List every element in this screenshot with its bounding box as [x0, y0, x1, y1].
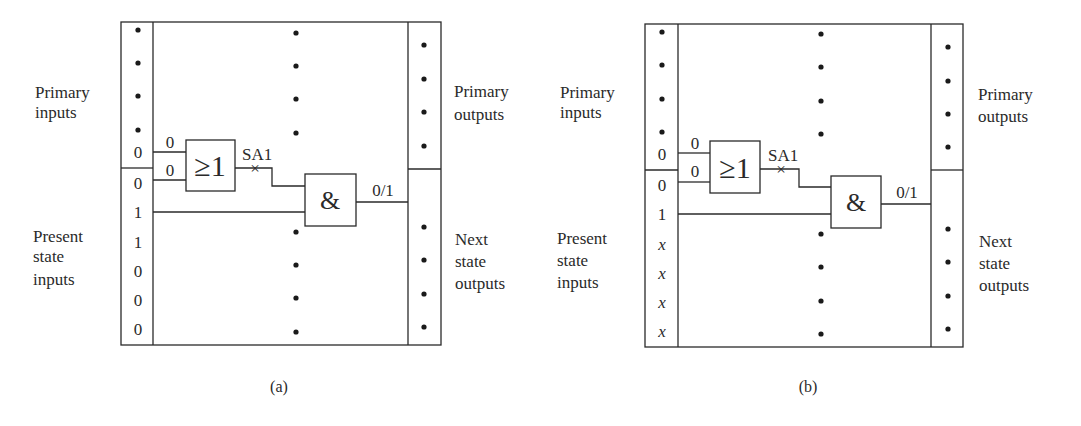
svg-text:outputs: outputs	[455, 274, 505, 293]
next-state-outputs-label: Next state outputs	[455, 230, 505, 293]
fault-marker-icon: ×	[250, 159, 260, 178]
present-state-value: 0	[134, 174, 143, 193]
present-state-value: x	[657, 264, 666, 283]
or-input-label-1: 0	[166, 133, 175, 152]
sequential-circuit-figure: 0 0 1 1 0 0 0	[0, 0, 1081, 426]
present-state-inputs-label: Present state inputs	[33, 227, 83, 289]
svg-text:Primary: Primary	[560, 83, 615, 102]
svg-text:state: state	[33, 247, 64, 266]
panel-a: 0 0 1 1 0 0 0	[33, 22, 509, 396]
svg-text:Next: Next	[979, 232, 1012, 251]
svg-text:state: state	[979, 254, 1010, 273]
panel-b: 0 0 1 x x x x	[557, 24, 1033, 396]
present-state-value: 1	[658, 205, 667, 224]
primary-outputs-label: Primary outputs	[454, 82, 509, 124]
svg-text:outputs: outputs	[979, 276, 1029, 295]
primary-inputs-label: Primary inputs	[560, 83, 615, 122]
primary-input-value: 0	[134, 143, 143, 162]
primary-input-value: 0	[658, 145, 667, 164]
present-state-value: x	[657, 322, 666, 341]
and-gate-symbol: &	[846, 188, 866, 217]
present-state-value: x	[657, 293, 666, 312]
present-state-value: 0	[134, 291, 143, 310]
svg-text:inputs: inputs	[557, 273, 599, 292]
primary-inputs-label: Primary inputs	[35, 83, 90, 122]
svg-text:Next: Next	[455, 230, 488, 249]
fault-marker-icon: ×	[776, 160, 786, 179]
svg-text:state: state	[557, 251, 588, 270]
svg-text:Primary: Primary	[35, 83, 90, 102]
svg-text:inputs: inputs	[33, 270, 75, 289]
present-state-value: 1	[134, 233, 143, 252]
present-state-value: 1	[134, 203, 143, 222]
or-gate-symbol: ≥1	[719, 151, 750, 184]
primary-outputs-label: Primary outputs	[978, 85, 1033, 126]
or-input-label-2: 0	[166, 161, 175, 180]
svg-text:Primary: Primary	[454, 82, 509, 101]
and-output-label: 0/1	[896, 183, 918, 202]
present-state-inputs-label: Present state inputs	[557, 229, 607, 292]
panel-caption: (a)	[270, 378, 288, 396]
svg-text:inputs: inputs	[35, 103, 77, 122]
svg-text:outputs: outputs	[454, 105, 504, 124]
next-state-outputs-label: Next state outputs	[979, 232, 1029, 295]
svg-text:Primary: Primary	[978, 85, 1033, 104]
svg-text:inputs: inputs	[560, 103, 602, 122]
svg-text:outputs: outputs	[978, 107, 1028, 126]
present-state-value: 0	[658, 176, 667, 195]
present-state-value: 0	[134, 320, 143, 339]
svg-text:Present: Present	[557, 229, 607, 248]
panel-caption: (b)	[799, 378, 818, 396]
present-state-value: 0	[134, 262, 143, 281]
or-gate-symbol: ≥1	[194, 149, 225, 182]
svg-text:state: state	[455, 252, 486, 271]
present-state-value: x	[657, 235, 666, 254]
svg-text:Present: Present	[33, 227, 83, 246]
and-output-label: 0/1	[372, 181, 394, 200]
and-gate-symbol: &	[320, 186, 340, 215]
or-input-label-1: 0	[691, 134, 700, 153]
or-input-label-2: 0	[691, 162, 700, 181]
